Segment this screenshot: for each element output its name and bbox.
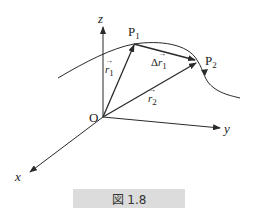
origin-label: O: [89, 111, 98, 124]
z-axis-label: z: [98, 12, 103, 25]
vector-r2-label: r2: [148, 93, 157, 104]
x-axis: [30, 117, 103, 172]
figure-caption: 図 1.8: [73, 189, 185, 208]
x-axis-label: x: [15, 170, 21, 183]
vector-r1-label: r1: [105, 64, 114, 75]
point-p2-label: P2: [205, 54, 217, 67]
y-axis-label: y: [224, 122, 230, 135]
y-axis: [103, 117, 220, 128]
trajectory-direction-arrow: [201, 69, 208, 76]
vector-delta-r1-label: Δr1: [151, 57, 167, 68]
point-p1-label: P1: [128, 25, 140, 38]
